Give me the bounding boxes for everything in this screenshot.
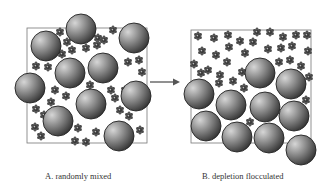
- polymer-coil-icon: [240, 84, 248, 93]
- polymer-coil-icon: [68, 46, 76, 55]
- polymer-coil-icon: [275, 58, 283, 67]
- polymer-coil-icon: [302, 96, 310, 105]
- polymer-coil-icon: [116, 106, 124, 115]
- polymer-coil-icon: [266, 28, 274, 37]
- polymer-coil-icon: [225, 43, 233, 52]
- polymer-coil-icon: [277, 44, 285, 53]
- colloid-particle: [279, 101, 309, 131]
- polymer-coil-icon: [292, 31, 300, 40]
- polymer-coil-icon: [32, 105, 40, 114]
- polymer-coil-icon: [109, 26, 117, 35]
- caption-depletion-flocculated: B. depletion flocculated: [202, 171, 283, 181]
- polymer-coil-icon: [246, 118, 254, 127]
- polymer-coil-icon: [194, 32, 202, 41]
- polymer-coil-icon: [210, 34, 218, 43]
- polymer-coil-icon: [297, 62, 305, 71]
- colloid-particle: [76, 89, 106, 119]
- polymer-coil-icon: [135, 56, 143, 65]
- polymer-coil-icon: [93, 41, 101, 50]
- polymer-coil-icon: [303, 31, 311, 40]
- polymer-coil-icon: [197, 69, 205, 78]
- polymer-coil-icon: [138, 68, 146, 77]
- colloid-particle: [55, 58, 85, 88]
- arrow-right-icon: [173, 79, 180, 86]
- polymer-coil-icon: [241, 49, 249, 58]
- polymer-coil-icon: [136, 126, 144, 135]
- colloid-particle: [286, 135, 316, 165]
- colloid-particle: [191, 111, 221, 141]
- polymer-coil-icon: [223, 58, 231, 67]
- colloid-particle: [66, 14, 96, 44]
- colloid-particle: [276, 69, 306, 99]
- polymer-coil-icon: [215, 79, 223, 88]
- caption-randomly-mixed: A. randomly mixed: [45, 171, 111, 181]
- polymer-coil-icon: [216, 71, 224, 80]
- polymer-coil-icon: [253, 28, 261, 37]
- polymer-coil-icon: [204, 66, 212, 75]
- colloid-particle: [88, 53, 118, 83]
- colloid-particle: [121, 81, 151, 111]
- polymer-coil-icon: [125, 112, 133, 121]
- colloid-particle: [216, 90, 246, 120]
- panel-randomly-mixed: [15, 14, 151, 151]
- colloid-particle: [43, 106, 73, 136]
- polymer-coil-icon: [37, 132, 45, 141]
- colloid-particle: [119, 23, 149, 53]
- panel-depletion-flocculated: [184, 28, 316, 165]
- polymer-coil-icon: [82, 138, 90, 147]
- polymer-coil-icon: [47, 98, 55, 107]
- polymer-coil-icon: [229, 77, 237, 86]
- polymer-coil-icon: [305, 73, 313, 82]
- colloid-particle: [104, 121, 134, 151]
- polymer-coil-icon: [74, 124, 82, 133]
- polymer-coil-icon: [198, 47, 206, 56]
- colloid-particle: [245, 58, 275, 88]
- polymer-coil-icon: [249, 38, 257, 47]
- polymer-coil-icon: [71, 137, 79, 146]
- polymer-coil-icon: [62, 92, 70, 101]
- colloid-particle: [222, 122, 252, 152]
- colloid-particle: [31, 31, 61, 61]
- polymer-coil-icon: [288, 42, 296, 51]
- depletion-diagram: [0, 0, 329, 187]
- polymer-coil-icon: [124, 58, 132, 67]
- polymer-coil-icon: [264, 45, 272, 54]
- colloid-particle: [254, 123, 284, 153]
- polymer-coil-icon: [92, 128, 100, 137]
- colloid-particle: [250, 92, 280, 122]
- polymer-coil-icon: [286, 56, 294, 65]
- colloid-particle: [184, 79, 214, 109]
- polymer-coil-icon: [51, 86, 59, 95]
- polymer-coil-icon: [56, 28, 64, 37]
- polymer-coil-icon: [236, 37, 244, 46]
- polymer-coil-icon: [212, 51, 220, 60]
- polymer-coil-icon: [224, 31, 232, 40]
- polymer-coil-icon: [44, 63, 52, 72]
- polymer-coil-icon: [86, 81, 94, 90]
- polymer-coil-icon: [82, 44, 90, 53]
- polymer-coil-icon: [279, 33, 287, 42]
- polymer-coil-icon: [107, 86, 115, 95]
- colloid-particle: [15, 73, 45, 103]
- polymer-coil-icon: [111, 94, 119, 103]
- polymer-coil-icon: [31, 123, 39, 132]
- transition-arrow: [150, 79, 180, 86]
- polymer-coil-icon: [32, 62, 40, 71]
